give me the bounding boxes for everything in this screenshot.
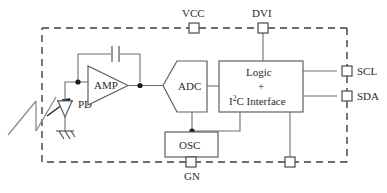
pad-vcc-label: VCC xyxy=(182,7,205,19)
pad-sda-label: SDA xyxy=(357,90,379,102)
pad-dvi[interactable]: DVI xyxy=(252,7,272,33)
pad-dvi-label: DVI xyxy=(252,7,272,19)
pad-unlabeled-bottom[interactable] xyxy=(285,157,295,167)
pad-gn[interactable]: GN xyxy=(184,157,200,182)
pad-gn-label: GN xyxy=(184,170,200,182)
amp-block: AMP xyxy=(75,66,163,105)
amp-label: AMP xyxy=(94,79,118,91)
logic-label-plus: + xyxy=(258,80,264,92)
osc-label: OSC xyxy=(179,139,200,151)
adc-block: ADC xyxy=(163,61,219,131)
logic-label-c-interface: C Interface xyxy=(236,95,285,107)
circuit-diagram: PD AMP ADC xyxy=(0,0,387,193)
pad-scl-label: SCL xyxy=(357,65,377,77)
ground-symbol xyxy=(56,131,75,139)
amp-output-junction xyxy=(137,83,142,88)
pad-scl[interactable]: SCL xyxy=(342,65,377,77)
logic-label-line1: Logic xyxy=(246,66,272,78)
amp-input-junction xyxy=(75,79,80,84)
adc-label: ADC xyxy=(178,80,201,92)
osc-block: OSC xyxy=(165,132,218,157)
logic-label-line2: I2C Interface xyxy=(229,94,286,107)
pad-sda[interactable]: SDA xyxy=(342,90,379,102)
photodiode-branch: PD xyxy=(56,82,92,139)
pad-vcc[interactable]: VCC xyxy=(182,7,205,33)
